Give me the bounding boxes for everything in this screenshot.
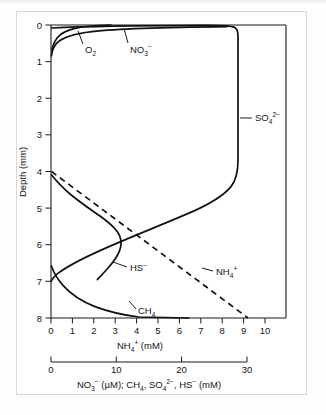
curve-o2: [52, 25, 111, 50]
figure-root: 0 1 2 3 4 5 6 7 8 Depth (mm) 0: [0, 0, 326, 415]
x-tick-label: 0: [48, 325, 53, 336]
x2-tick-label: 30: [242, 364, 253, 375]
curve-label-nh4: NH4+: [216, 265, 237, 278]
x2-tick-label: 0: [48, 364, 53, 375]
y-tick-label: 3: [37, 129, 42, 140]
x-tick-label: 3: [113, 325, 118, 336]
x-tick-label: 8: [220, 325, 225, 336]
y-axis-ticks: [46, 25, 52, 318]
curve-label-hs: HS−: [130, 262, 147, 273]
x-tick-label: 1: [70, 325, 75, 336]
y-tick-label: 7: [37, 276, 42, 287]
x-axis-primary-title: NH4+ (mM): [117, 339, 163, 352]
svg-text:NH4+ (mM): NH4+ (mM): [117, 339, 163, 352]
y-tick-label: 8: [37, 313, 42, 324]
y-tick-label: 0: [37, 20, 42, 31]
curve-label-so4: SO42−: [255, 111, 280, 124]
curve-label-o2: O2: [85, 44, 96, 57]
x-title-sub: 4: [131, 346, 135, 353]
curve-hs: [52, 175, 121, 280]
x-tick-label: 4: [134, 325, 139, 336]
plot-frame: [51, 25, 286, 318]
curve-label-ch4: CH4: [138, 305, 156, 318]
y-axis-title: Depth (mm): [17, 147, 28, 197]
x-tick-label: 5: [155, 325, 160, 336]
y-tick-label: 5: [37, 203, 42, 214]
y-tick-label: 1: [37, 56, 42, 67]
x-tick-label: 6: [177, 325, 182, 336]
svg-text:NO3− (µM); CH4, SO42−, HS− (mM: NO3− (µM); CH4, SO42−, HS− (mM): [77, 378, 221, 391]
depth-profile-chart: 0 1 2 3 4 5 6 7 8 Depth (mm) 0: [0, 0, 326, 415]
x-axis-secondary-title: NO3− (µM); CH4, SO42−, HS− (mM): [77, 378, 221, 391]
x2-tick-label: 10: [111, 364, 122, 375]
x2-tick-label: 20: [176, 364, 187, 375]
x-axis-secondary: [51, 357, 247, 363]
curve-nh4: [52, 172, 249, 319]
y-axis-tick-labels: 0 1 2 3 4 5 6 7 8: [37, 20, 42, 324]
x-axis-primary-ticks: [51, 318, 265, 324]
x-axis-secondary-tick-labels: 0 10 20 30: [48, 364, 252, 375]
x-tick-label: 10: [260, 325, 271, 336]
y-tick-label: 4: [37, 166, 42, 177]
y-tick-label: 2: [37, 93, 42, 104]
x-title-main: NH: [117, 340, 131, 351]
x-tick-label: 7: [198, 325, 203, 336]
curve-label-no3: NO3−: [130, 43, 152, 56]
x-title-units: (mM): [138, 340, 163, 351]
curve-so4: [51, 25, 238, 281]
y-tick-label: 6: [37, 239, 42, 250]
x-axis-primary-tick-labels: 0 1 2 3 4 5 6 7 8 9 10: [48, 325, 270, 336]
x-tick-label: 2: [91, 325, 96, 336]
curve-ch4: [51, 266, 189, 318]
x-tick-label: 9: [241, 325, 246, 336]
